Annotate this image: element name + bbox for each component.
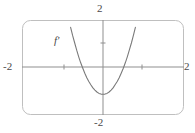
x-axis-min-label: -2 — [3, 61, 12, 72]
plot-canvas — [0, 0, 195, 133]
curve-label-f-prime: f' — [54, 35, 59, 46]
graph-figure: 2 -2 -2 2 f' — [0, 0, 195, 133]
x-axis-max-label: 2 — [184, 61, 190, 72]
y-axis-max-label: 2 — [97, 3, 103, 14]
y-axis-min-label: -2 — [94, 117, 103, 128]
